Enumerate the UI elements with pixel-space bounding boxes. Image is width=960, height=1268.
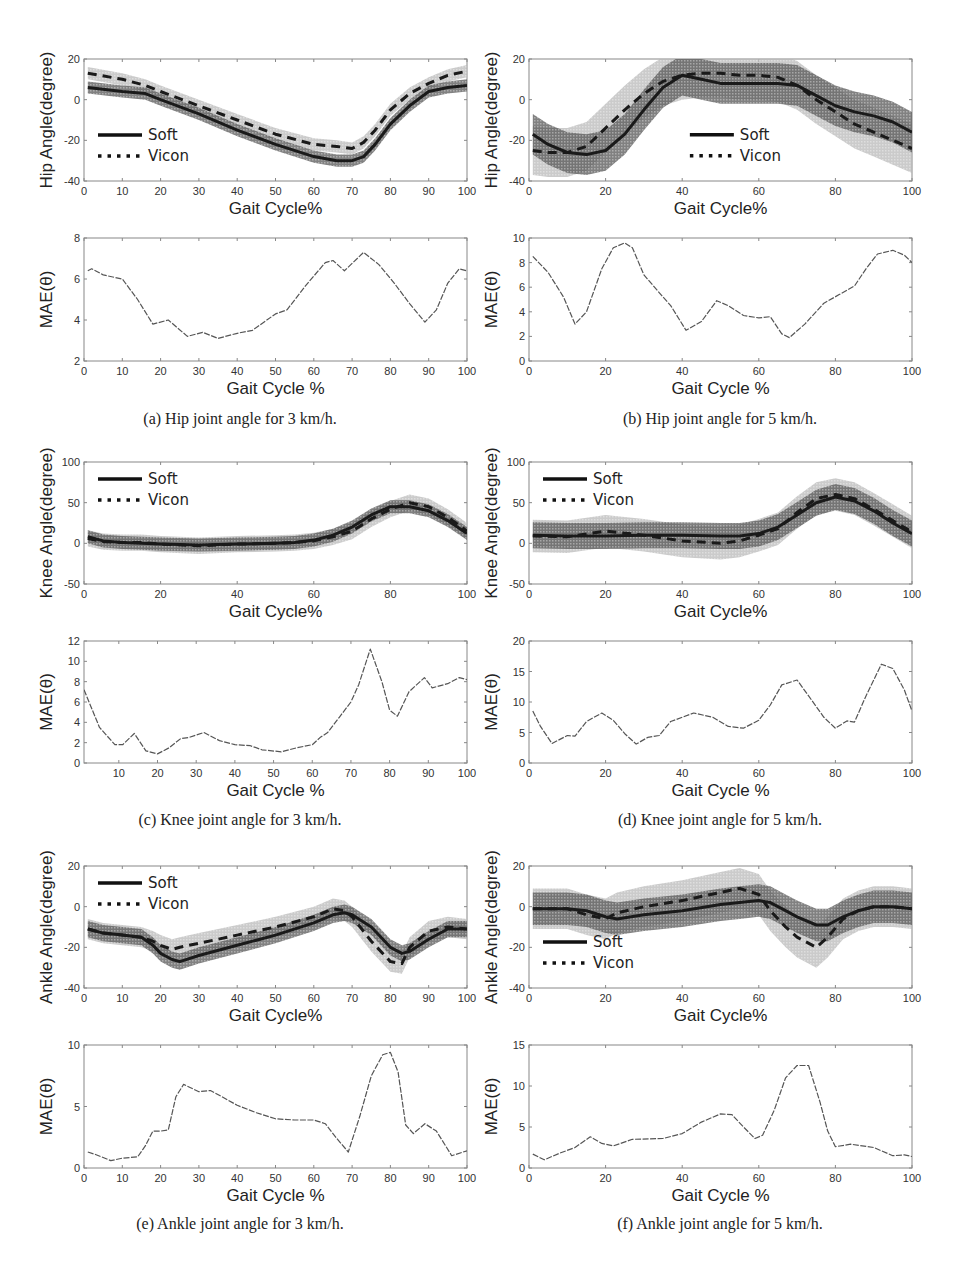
x-tick-label: 60 <box>753 365 765 377</box>
x-tick-label: 10 <box>116 1172 128 1184</box>
legend-vicon-label: Vicon <box>148 147 189 165</box>
x-tick-label: 90 <box>423 1172 435 1184</box>
y-tick-label: 20 <box>513 860 525 872</box>
x-tick-label: 60 <box>306 767 318 779</box>
legend-vicon-label: Vicon <box>148 895 189 913</box>
x-tick-label: 20 <box>154 588 166 600</box>
y-tick-label: 0 <box>519 537 525 549</box>
y-tick-label: 100 <box>62 456 80 468</box>
chart-a-mae: 01020304050607080901002468Gait Cycle %MA… <box>37 232 476 398</box>
y-tick-label: 20 <box>513 635 525 647</box>
chart-b-mae: 0204060801000246810Gait Cycle %MAE(θ) <box>482 232 921 398</box>
x-tick-label: 100 <box>903 185 921 197</box>
x-axis-label: Gait Cycle% <box>674 1006 768 1025</box>
chart-f-angle: 020406080100-40-20020Gait Cycle%Ankle An… <box>482 850 921 1025</box>
y-axis-label: MAE(θ) <box>482 271 501 329</box>
chart-d-angle: 020406080100-50050100Gait Cycle%Knee Ang… <box>482 447 921 621</box>
x-tick-label: 0 <box>526 992 532 1004</box>
x-tick-label: 80 <box>829 992 841 1004</box>
x-tick-label: 80 <box>384 185 396 197</box>
y-tick-label: 0 <box>74 757 80 769</box>
plot-area <box>84 1045 467 1168</box>
x-tick-label: 30 <box>193 365 205 377</box>
x-tick-label: 20 <box>599 185 611 197</box>
chart-a-angle: 0102030405060708090100-40-20020Gait Cycl… <box>37 51 476 218</box>
x-tick-label: 90 <box>423 992 435 1004</box>
x-tick-label: 50 <box>269 992 281 1004</box>
x-tick-label: 90 <box>423 365 435 377</box>
caption-a: (a) Hip joint angle for 3 km/h. <box>0 410 480 428</box>
x-axis-label: Gait Cycle% <box>674 602 768 621</box>
y-tick-label: 8 <box>74 232 80 244</box>
x-tick-label: 40 <box>229 767 241 779</box>
x-axis-label: Gait Cycle % <box>671 379 769 398</box>
figure-canvas: 0102030405060708090100-40-20020Gait Cycl… <box>0 0 960 1268</box>
x-tick-label: 80 <box>829 588 841 600</box>
y-tick-label: 100 <box>507 456 525 468</box>
y-axis-label: MAE(θ) <box>37 1078 56 1136</box>
x-tick-label: 70 <box>345 767 357 779</box>
x-tick-label: 40 <box>676 588 688 600</box>
x-tick-label: 20 <box>154 365 166 377</box>
legend-soft-label: Soft <box>740 126 770 144</box>
y-axis-label: MAE(θ) <box>37 271 56 329</box>
x-tick-label: 20 <box>599 588 611 600</box>
x-tick-label: 100 <box>458 992 476 1004</box>
x-tick-label: 60 <box>753 185 765 197</box>
x-axis-label: Gait Cycle % <box>226 1186 324 1205</box>
legend-soft-label: Soft <box>148 126 178 144</box>
x-axis-label: Gait Cycle% <box>229 1006 323 1025</box>
legend-vicon-label: Vicon <box>593 491 634 509</box>
legend-vicon-label: Vicon <box>740 147 781 165</box>
x-tick-label: 20 <box>599 767 611 779</box>
x-tick-label: 60 <box>308 1172 320 1184</box>
y-tick-label: 10 <box>513 232 525 244</box>
x-tick-label: 10 <box>116 365 128 377</box>
x-tick-label: 0 <box>526 588 532 600</box>
x-tick-label: 0 <box>81 185 87 197</box>
y-tick-label: 5 <box>519 1121 525 1133</box>
legend-soft-label: Soft <box>148 874 178 892</box>
x-tick-label: 90 <box>422 767 434 779</box>
x-tick-label: 80 <box>384 992 396 1004</box>
x-tick-label: 40 <box>231 365 243 377</box>
y-tick-label: 20 <box>68 53 80 65</box>
plot-area <box>529 238 912 361</box>
x-tick-label: 40 <box>231 588 243 600</box>
y-tick-label: 8 <box>519 257 525 269</box>
y-tick-label: 6 <box>74 273 80 285</box>
x-tick-label: 40 <box>676 365 688 377</box>
y-tick-label: 10 <box>68 655 80 667</box>
x-tick-label: 0 <box>526 365 532 377</box>
x-tick-label: 50 <box>269 185 281 197</box>
y-axis-label: Knee Angle(degree) <box>37 447 56 598</box>
x-tick-label: 30 <box>193 992 205 1004</box>
chart-e-mae: 01020304050607080901000510Gait Cycle %MA… <box>37 1039 476 1205</box>
x-tick-label: 80 <box>384 767 396 779</box>
y-tick-label: 0 <box>519 94 525 106</box>
x-tick-label: 100 <box>458 767 476 779</box>
x-tick-label: 60 <box>308 185 320 197</box>
x-tick-label: 40 <box>231 185 243 197</box>
y-axis-label: Knee Angle(degree) <box>482 447 501 598</box>
x-tick-label: 100 <box>903 588 921 600</box>
x-tick-label: 0 <box>526 767 532 779</box>
caption-f: (f) Ankle joint angle for 5 km/h. <box>480 1215 960 1233</box>
x-tick-label: 40 <box>676 992 688 1004</box>
x-tick-label: 80 <box>829 365 841 377</box>
x-axis-label: Gait Cycle % <box>671 1186 769 1205</box>
y-tick-label: -40 <box>509 175 525 187</box>
x-tick-label: 20 <box>599 992 611 1004</box>
x-tick-label: 80 <box>384 588 396 600</box>
x-tick-label: 100 <box>903 365 921 377</box>
x-tick-label: 0 <box>526 185 532 197</box>
y-tick-label: 6 <box>519 281 525 293</box>
y-tick-label: -20 <box>509 941 525 953</box>
x-tick-label: 20 <box>599 365 611 377</box>
x-tick-label: 70 <box>346 365 358 377</box>
x-tick-label: 80 <box>384 365 396 377</box>
x-tick-label: 20 <box>599 1172 611 1184</box>
x-tick-label: 0 <box>81 588 87 600</box>
x-axis-label: Gait Cycle% <box>229 602 323 621</box>
y-tick-label: 10 <box>513 1080 525 1092</box>
